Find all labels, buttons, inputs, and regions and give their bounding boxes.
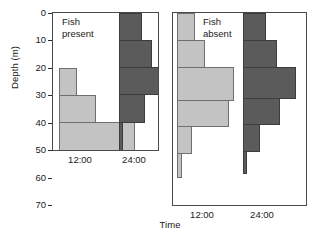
y-tick-label-40: 40 xyxy=(24,118,46,128)
panel-fish-absent: Fish absent xyxy=(172,12,307,206)
y-tick-label-10: 10 xyxy=(24,35,46,45)
bar-present-2400-10-20 xyxy=(119,40,152,68)
bar-absent-2400-42-52 xyxy=(243,124,260,152)
bar-present-2400-0-10 xyxy=(119,13,142,41)
y-tick-label-60: 60 xyxy=(24,173,46,183)
bar-absent-1200-10-20 xyxy=(177,40,205,68)
bar-absent-2400-32-42 xyxy=(243,98,280,125)
bar-absent-2400-10-20 xyxy=(243,40,277,68)
bar-absent-1200-45-55 xyxy=(177,126,192,154)
x-axis-title: Time xyxy=(120,219,220,230)
bar-absent-1200-0-10 xyxy=(177,13,195,41)
y-tick-label-70: 70 xyxy=(24,200,46,210)
y-tick-label-30: 30 xyxy=(24,90,46,100)
bar-present-2400-40-50 xyxy=(119,122,123,151)
bar-absent-2400-0-10 xyxy=(243,13,266,41)
bar-present-1200-20-30 xyxy=(59,68,77,96)
bar-absent-1200-55-62 xyxy=(177,153,182,178)
y-tick-label-0: 0 xyxy=(24,8,46,18)
bar-present-2400-20-30 xyxy=(119,67,159,95)
panel-label-fish-absent: Fish absent xyxy=(203,16,232,39)
panel-label-fish-present: Fish present xyxy=(62,16,94,39)
y-tick-mark-70 xyxy=(48,205,52,206)
y-tick-label-50: 50 xyxy=(24,145,46,155)
bar-present-1200-40-50 xyxy=(59,122,135,151)
y-tick-label-20: 20 xyxy=(24,63,46,73)
x-tick-label-left-1200: 12:00 xyxy=(58,154,102,165)
panel-fish-present: Fish present xyxy=(52,12,159,151)
x-tick-label-left-2400: 24:00 xyxy=(112,154,156,165)
x-tick-label-right-2400: 24:00 xyxy=(240,209,284,220)
bar-present-2400-30-40 xyxy=(119,94,145,123)
y-tick-mark-60 xyxy=(48,178,52,179)
depth-profile-figure: Depth (m) 0 10 20 30 40 50 60 70 Fish pr… xyxy=(0,0,320,241)
bar-absent-2400-20-32 xyxy=(243,67,296,99)
bar-present-1200-30-40 xyxy=(59,95,96,123)
bar-absent-2400-52-60 xyxy=(243,151,247,174)
bar-absent-1200-20-35 xyxy=(177,67,234,101)
y-axis-title: Depth (m) xyxy=(9,33,20,103)
bar-absent-1200-35-45 xyxy=(177,100,229,127)
